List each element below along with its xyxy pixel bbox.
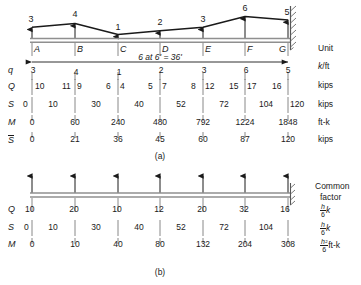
Q-row-value-7: 8: [191, 82, 196, 91]
Sbar-row-value-6: 120: [281, 135, 295, 144]
q-value-G: 5: [284, 8, 289, 17]
Qb-value-4: 20: [197, 205, 206, 214]
q-value-C: 1: [115, 23, 120, 32]
unit-Sbar: kips: [318, 135, 333, 144]
unit-S: kips: [318, 100, 333, 109]
q-value-B: 4: [72, 10, 77, 19]
row-label-M: M: [8, 118, 16, 127]
S-row-value-7: 120: [290, 100, 304, 109]
s-row-separators-b: [32, 220, 288, 236]
Qb-value-3: 12: [154, 205, 163, 214]
common-factor-M-num: h²: [320, 238, 328, 246]
Q-row-value-11: 16: [272, 82, 281, 91]
M-row-value-2: 240: [111, 118, 125, 127]
q-value-D: 2: [157, 18, 162, 27]
Mb-value-5: 204: [238, 240, 252, 249]
common-factor-M: h²6ft-k: [320, 238, 340, 253]
row-label-S-b: S: [8, 223, 14, 232]
M-row-value-3: 480: [153, 118, 167, 127]
Sbar-row-value-3: 45: [155, 135, 164, 144]
S-row-value-6: 104: [259, 100, 273, 109]
beam-analysis-figure: 3 4 1 2 3 6 5 A B C D E F G 6 at 6' = 36…: [0, 0, 361, 285]
M-row-value-1: 60: [70, 118, 79, 127]
dimension-label: 6 at 6' = 36': [138, 53, 182, 62]
Q-row-value-0: 10: [35, 82, 44, 91]
M-row-value-0: 0: [30, 118, 35, 127]
row-label-Q: Q: [8, 82, 15, 91]
S-row-value-1: 10: [48, 100, 57, 109]
unit-M: ft-k: [318, 118, 330, 127]
common-factor-header-2: factor: [320, 193, 341, 202]
Mb-value-3: 80: [155, 240, 164, 249]
common-factor-header-1: Common: [315, 182, 349, 191]
beam-member-b: [30, 193, 290, 197]
q-row-value-1: 4: [74, 68, 79, 77]
Mb-value-1: 10: [70, 240, 79, 249]
fixed-support-b: [291, 183, 296, 205]
Sbar-row-value-5: 87: [240, 135, 249, 144]
Sb-value-1: 10: [48, 223, 57, 232]
unit-header-a: Unit: [318, 44, 333, 53]
q-value-F: 6: [242, 4, 247, 13]
Q-row-value-5: 5: [148, 82, 153, 91]
q-row-value-4: 3: [202, 66, 207, 75]
Qb-value-0: 10: [25, 205, 34, 214]
Qb-value-5: 32: [239, 205, 248, 214]
q-value-E: 3: [200, 15, 205, 24]
caption-b: (b): [155, 268, 165, 277]
Mb-value-0: 0: [30, 240, 35, 249]
Sb-value-4: 52: [176, 223, 185, 232]
common-factor-Q: h6k: [320, 203, 330, 218]
Qb-value-6: 16: [280, 205, 289, 214]
Sbar-row-value-1: 21: [70, 135, 79, 144]
q-row-value-3: 2: [159, 66, 164, 75]
Q-row-value-4: 4: [120, 82, 125, 91]
figure-graphics: [0, 0, 361, 285]
row-label-M-b: M: [8, 240, 16, 249]
row-label-Q-b: Q: [8, 205, 15, 214]
row-label-S: S: [8, 100, 14, 109]
panel-point-A: A: [34, 45, 40, 54]
Q-row-value-2: 9: [77, 82, 82, 91]
Sb-value-3: 40: [134, 223, 143, 232]
M-row-value-4: 792: [196, 118, 210, 127]
caption-a: (a): [155, 152, 165, 161]
Mb-value-6: 308: [281, 240, 295, 249]
row-label-Sbar: S: [8, 135, 14, 145]
unit-q: k/ft: [318, 62, 329, 71]
q-row-value-6: 5: [286, 66, 291, 75]
Sbar-row-value-2: 36: [113, 135, 122, 144]
panel-point-E: E: [205, 45, 211, 54]
fixed-support-a: [291, 6, 297, 50]
Sb-value-5: 72: [219, 223, 228, 232]
panel-point-C: C: [120, 45, 127, 54]
Sbar-row-value-0: 0: [30, 135, 35, 144]
common-factor-M-suffix: ft-k: [328, 240, 340, 250]
S-row-value-3: 40: [134, 100, 143, 109]
unit-Q: kips: [318, 81, 333, 90]
Qb-value-1: 20: [69, 205, 78, 214]
Sbar-row-value-4: 60: [198, 135, 207, 144]
M-row-value-6: 1848: [279, 118, 298, 127]
row-label-Sbar-text: S: [8, 135, 14, 145]
unit-q-den: ft: [325, 61, 330, 71]
Sb-value-0: 0: [24, 223, 29, 232]
common-factor-M-fraction: h²6: [320, 238, 328, 253]
q-row-value-0: 3: [31, 66, 36, 75]
S-row-value-5: 72: [219, 100, 228, 109]
Q-row-value-9: 15: [229, 82, 238, 91]
Q-row-value-3: 6: [106, 82, 111, 91]
Sb-value-2: 30: [91, 223, 100, 232]
common-factor-S-suffix: k: [326, 223, 330, 233]
common-factor-Q-suffix: k: [326, 205, 330, 215]
Mb-value-2: 40: [113, 240, 122, 249]
S-row-value-4: 52: [176, 100, 185, 109]
Q-row-value-6: 7: [162, 82, 167, 91]
s-row-separators-a: [32, 97, 288, 113]
Q-row-value-1: 11: [62, 82, 71, 91]
Q-row-value-10: 17: [247, 82, 256, 91]
q-value-A: 3: [28, 15, 33, 24]
row-label-q: q: [8, 66, 13, 75]
beam-member-a: [30, 39, 290, 43]
Sb-value-6: 104: [259, 223, 273, 232]
